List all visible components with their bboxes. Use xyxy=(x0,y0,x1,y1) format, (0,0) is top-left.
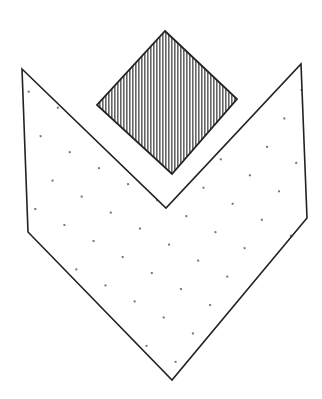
diagram-canvas xyxy=(0,0,322,399)
hatched-diamond-shape xyxy=(97,31,237,174)
